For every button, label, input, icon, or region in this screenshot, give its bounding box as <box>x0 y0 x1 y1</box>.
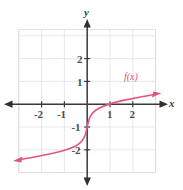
curve-left-arrowhead <box>13 156 22 162</box>
function-curve-label: f(x) <box>124 72 138 82</box>
y-tick-label-2: 2 <box>77 54 82 65</box>
graph-figure: -2 -1 1 2 2 1 -1 -2 x y f(x) <box>0 0 183 190</box>
x-tick-label-neg2: -2 <box>34 109 43 120</box>
x-tick-label-neg1: -1 <box>57 109 66 120</box>
y-axis-name: y <box>84 7 89 18</box>
y-axis <box>84 19 91 186</box>
x-axis-left-arrowhead <box>4 101 13 108</box>
y-tick-label-neg1: -1 <box>72 122 81 133</box>
x-tick-label-1: 1 <box>107 109 112 120</box>
curve-right-arrowhead <box>152 91 162 97</box>
y-tick-label-1: 1 <box>77 77 82 88</box>
y-axis-bottom-arrowhead <box>84 178 91 187</box>
y-axis-top-arrowhead <box>84 19 91 28</box>
x-axis-right-arrowhead <box>160 101 169 108</box>
x-axis <box>4 101 168 108</box>
y-tick-label-neg2: -2 <box>72 145 81 156</box>
x-tick-label-2: 2 <box>130 109 135 120</box>
coordinate-plane <box>0 0 183 190</box>
x-axis-name: x <box>169 98 175 109</box>
